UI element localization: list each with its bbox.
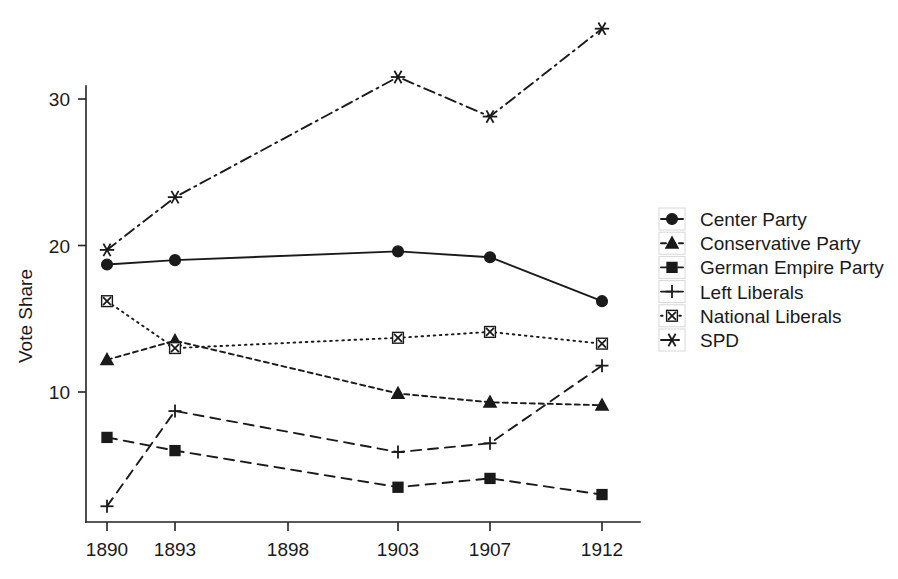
legend-item-center-party[interactable]: Center Party	[659, 208, 807, 230]
x-tick-label: 1890	[86, 539, 128, 560]
legend-item-german-empire-party[interactable]: German Empire Party	[659, 256, 884, 278]
series-german-empire-party	[102, 432, 607, 499]
asterisk-marker-icon	[665, 334, 679, 346]
square-marker-icon	[102, 432, 112, 442]
series-path	[107, 437, 602, 494]
circle-marker-icon	[170, 255, 181, 266]
x-tick-label: 1893	[154, 539, 196, 560]
plus-marker-icon	[596, 359, 609, 372]
vote-share-line-chart: 102030 189018931898190319071912 Vote Sha…	[0, 0, 898, 579]
legend-label: Left Liberals	[700, 282, 804, 303]
series-spd	[100, 22, 609, 256]
series-path	[107, 29, 602, 250]
series-left-liberals	[101, 359, 609, 513]
y-tick-group: 102030	[49, 89, 86, 403]
square-marker-icon	[667, 262, 677, 272]
legend-item-spd[interactable]: SPD	[659, 329, 739, 351]
circle-marker-icon	[102, 259, 113, 270]
x-tick-label: 1912	[581, 539, 623, 560]
square-marker-icon	[393, 482, 403, 492]
plus-marker-icon	[101, 500, 114, 513]
series-path	[107, 341, 602, 406]
series-path	[107, 251, 602, 301]
series-national-liberals	[102, 296, 608, 354]
triangle-marker-icon	[666, 237, 678, 248]
boxed-cross-marker-icon	[485, 327, 496, 338]
legend-label: German Empire Party	[700, 257, 884, 278]
x-tick-label: 1907	[469, 539, 511, 560]
y-tick-label: 30	[49, 89, 70, 110]
boxed-cross-marker-icon	[170, 343, 181, 354]
square-marker-icon	[170, 446, 180, 456]
series-center-party	[102, 246, 608, 307]
circle-marker-icon	[393, 246, 404, 257]
plus-marker-icon	[484, 437, 497, 450]
plus-marker-icon	[169, 405, 182, 418]
legend-item-conservative-party[interactable]: Conservative Party	[659, 232, 861, 254]
y-tick-label: 10	[49, 382, 70, 403]
x-tick-label: 1903	[377, 539, 419, 560]
series-path	[107, 301, 602, 348]
legend-item-national-liberals[interactable]: National Liberals	[659, 305, 842, 327]
y-axis: 102030	[49, 86, 86, 522]
triangle-marker-icon	[392, 387, 404, 398]
square-marker-icon	[597, 490, 607, 500]
plus-marker-icon	[666, 285, 679, 298]
legend-item-left-liberals[interactable]: Left Liberals	[659, 281, 804, 303]
asterisk-marker-icon	[391, 71, 405, 83]
legend-label: SPD	[700, 330, 739, 351]
legend-label: National Liberals	[700, 306, 842, 327]
y-axis-title: Vote Share	[15, 269, 36, 363]
series-path	[107, 366, 602, 507]
circle-marker-icon	[667, 214, 678, 225]
chart-canvas: 102030 189018931898190319071912 Vote Sha…	[0, 0, 898, 579]
legend-label: Center Party	[700, 209, 807, 230]
x-tick-label: 1898	[267, 539, 309, 560]
boxed-cross-marker-icon	[393, 332, 404, 343]
boxed-cross-marker-icon	[667, 310, 678, 321]
boxed-cross-marker-icon	[102, 296, 113, 307]
plus-marker-icon	[392, 446, 405, 459]
series-group	[100, 22, 609, 512]
boxed-cross-marker-icon	[597, 338, 608, 349]
circle-marker-icon	[597, 296, 608, 307]
square-marker-icon	[485, 473, 495, 483]
x-tick-group: 189018931898190319071912	[86, 522, 623, 560]
y-tick-label: 20	[49, 236, 70, 257]
legend-label: Conservative Party	[700, 233, 861, 254]
x-axis: 189018931898190319071912	[86, 522, 640, 560]
chart-legend: Center PartyConservative PartyGerman Emp…	[659, 208, 884, 351]
circle-marker-icon	[485, 252, 496, 263]
